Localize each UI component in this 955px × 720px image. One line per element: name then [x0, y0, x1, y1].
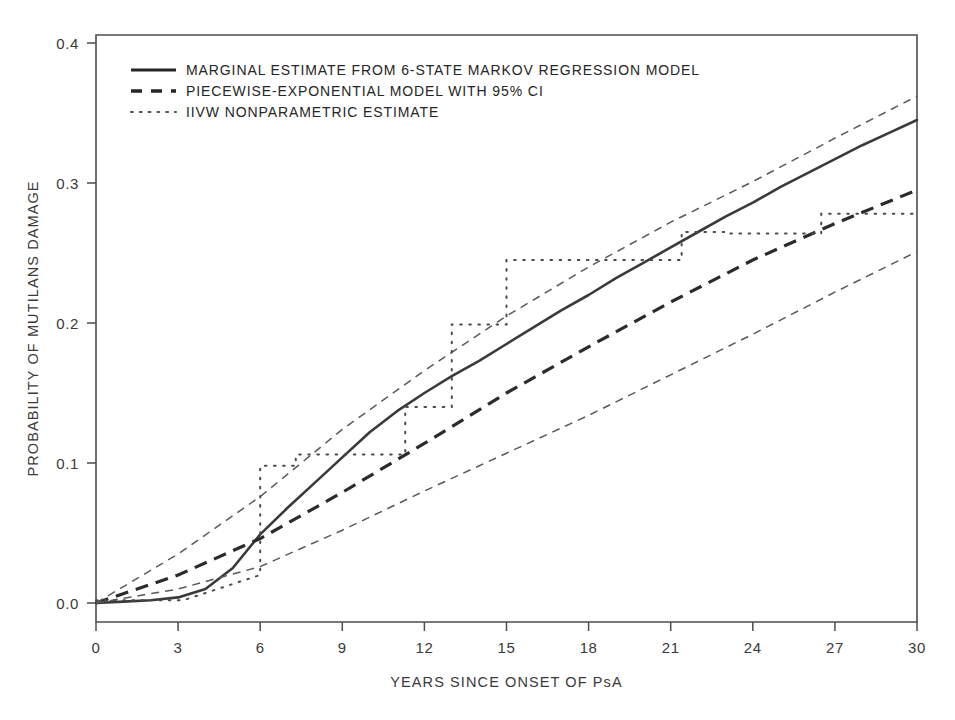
x-tick-label: 12 [415, 639, 433, 656]
data-series-group [96, 96, 917, 603]
y-tick-label: 0.3 [56, 175, 79, 192]
chart-figure: 0369121518212427300.00.10.20.30.4 MARGIN… [0, 0, 955, 720]
y-axis-title: PROBABILITY OF MUTILANS DAMAGE [25, 180, 41, 476]
chart-legend: MARGINAL ESTIMATE FROM 6-STATE MARKOV RE… [131, 62, 700, 120]
x-tick-label: 0 [92, 639, 101, 656]
series-line [96, 252, 917, 603]
series-line [96, 214, 917, 600]
axis-titles: YEARS SINCE ONSET OF PsAPROBABILITY OF M… [25, 180, 623, 690]
axis-ticks [87, 43, 917, 631]
x-tick-label: 30 [908, 639, 926, 656]
x-tick-label: 27 [826, 639, 844, 656]
plot-border [96, 35, 917, 622]
plot-frame [96, 35, 917, 622]
y-tick-label: 0.1 [56, 455, 79, 472]
legend-label: PIECEWISE-EXPONENTIAL MODEL WITH 95% CI [186, 83, 544, 99]
x-tick-label: 24 [744, 639, 762, 656]
x-tick-label: 21 [662, 639, 680, 656]
x-tick-label: 18 [580, 639, 598, 656]
chart-plot-area: 0369121518212427300.00.10.20.30.4 MARGIN… [0, 0, 955, 720]
series-line [96, 190, 917, 603]
x-tick-label: 15 [498, 639, 516, 656]
x-tick-label: 3 [174, 639, 183, 656]
legend-label: MARGINAL ESTIMATE FROM 6-STATE MARKOV RE… [186, 62, 700, 78]
x-axis-title: YEARS SINCE ONSET OF PsA [390, 674, 622, 690]
y-tick-label: 0.4 [56, 35, 79, 52]
series-line [96, 96, 917, 603]
x-tick-label: 9 [338, 639, 347, 656]
x-tick-label: 6 [256, 639, 265, 656]
y-tick-label: 0.0 [56, 595, 79, 612]
series-line [96, 120, 917, 603]
legend-label: IIVW NONPARAMETRIC ESTIMATE [186, 104, 439, 120]
axis-tick-labels: 0369121518212427300.00.10.20.30.4 [56, 35, 926, 657]
y-tick-label: 0.2 [56, 315, 79, 332]
